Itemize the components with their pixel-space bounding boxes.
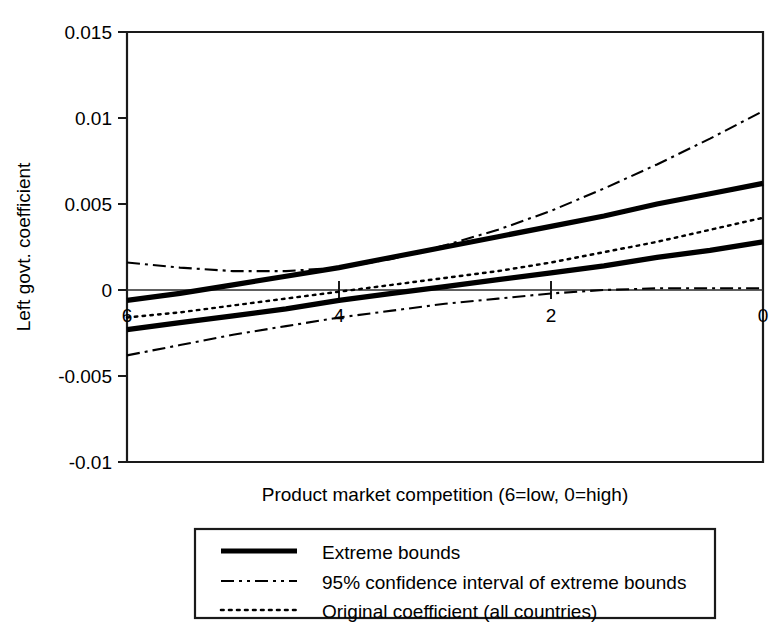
y-tick-label: 0.005 [64, 194, 112, 215]
chart-figure: 0.015 0.01 0.005 0 -0.005 -0.01 Left gov… [0, 0, 780, 643]
y-tick-label: 0.01 [75, 108, 112, 129]
legend-label-original-coefficient: Original coefficient (all countries) [322, 601, 597, 622]
y-axis-title: Left govt. coefficient [13, 162, 34, 331]
x-tick-label: 0 [758, 305, 769, 326]
y-tick-label: 0 [101, 280, 112, 301]
y-tick-label: -0.005 [58, 366, 112, 387]
series-original [127, 218, 763, 318]
y-axis-tick-labels: 0.015 0.01 0.005 0 -0.005 -0.01 [58, 22, 112, 473]
y-tick-label: -0.01 [69, 452, 112, 473]
y-axis-ticks [118, 32, 127, 462]
x-tick-label: 4 [334, 305, 345, 326]
data-series-group [127, 111, 763, 355]
x-axis-title: Product market competition (6=low, 0=hig… [262, 484, 628, 505]
y-tick-label: 0.015 [64, 22, 112, 43]
legend: Extreme bounds 95% confidence interval o… [195, 529, 715, 622]
chart-canvas: 0.015 0.01 0.005 0 -0.005 -0.01 Left gov… [0, 0, 780, 643]
series-ci-lower [127, 288, 763, 355]
x-tick-label: 2 [546, 305, 557, 326]
series-bound-upper [127, 183, 763, 300]
legend-label-extreme-bounds: Extreme bounds [322, 542, 460, 563]
legend-label-confidence-interval: 95% confidence interval of extreme bound… [322, 572, 686, 593]
x-tick-label: 6 [122, 305, 133, 326]
